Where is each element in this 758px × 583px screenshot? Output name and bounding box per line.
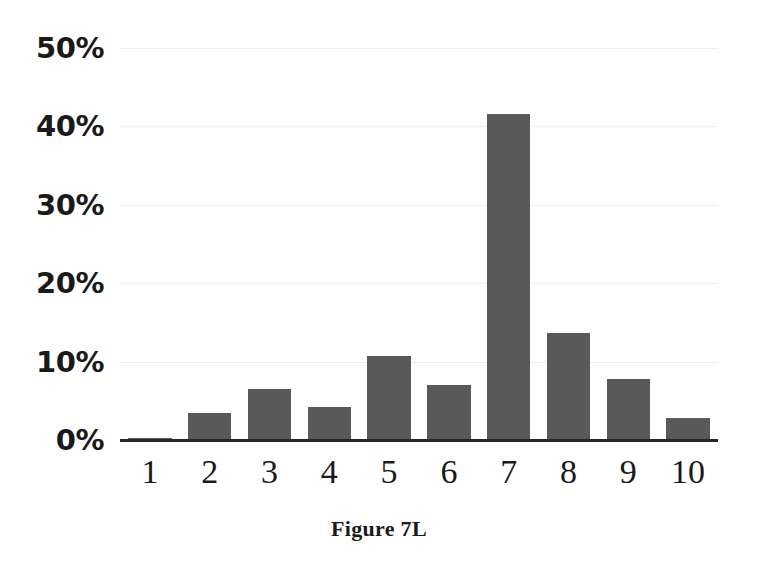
x-tick-label: 10	[671, 452, 705, 491]
x-tick-label: 8	[560, 452, 577, 491]
x-tick-label: 6	[440, 452, 457, 491]
y-tick-label: 30%	[4, 190, 104, 219]
plot-area	[120, 48, 718, 440]
y-tick-label: 50%	[4, 34, 104, 63]
y-tick-label: 40%	[4, 112, 104, 141]
x-tick-label: 1	[141, 452, 158, 491]
bar	[367, 356, 410, 440]
bar	[308, 407, 351, 440]
y-axis-tick-labels: 50% 40% 30% 20% 10% 0%	[0, 48, 104, 440]
x-axis-tick-labels: 12345678910	[120, 452, 718, 498]
x-tick-label: 3	[261, 452, 278, 491]
y-tick-label: 0%	[4, 426, 104, 455]
x-tick-label: 9	[620, 452, 637, 491]
figure-container: 50% 40% 30% 20% 10% 0% 12345678910 Figur…	[0, 0, 758, 583]
bar	[188, 413, 231, 440]
figure-caption: Figure 7L	[0, 516, 758, 542]
bar	[607, 379, 650, 440]
y-tick-label: 10%	[4, 347, 104, 376]
bar	[547, 333, 590, 440]
bar	[248, 389, 291, 440]
bar	[487, 114, 530, 440]
x-tick-label: 5	[381, 452, 398, 491]
bar	[666, 418, 709, 440]
x-tick-label: 4	[321, 452, 338, 491]
bar	[427, 385, 470, 440]
x-axis-line	[120, 439, 718, 442]
x-tick-label: 7	[500, 452, 517, 491]
x-tick-label: 2	[201, 452, 218, 491]
bar-series	[120, 48, 718, 440]
y-tick-label: 20%	[4, 269, 104, 298]
